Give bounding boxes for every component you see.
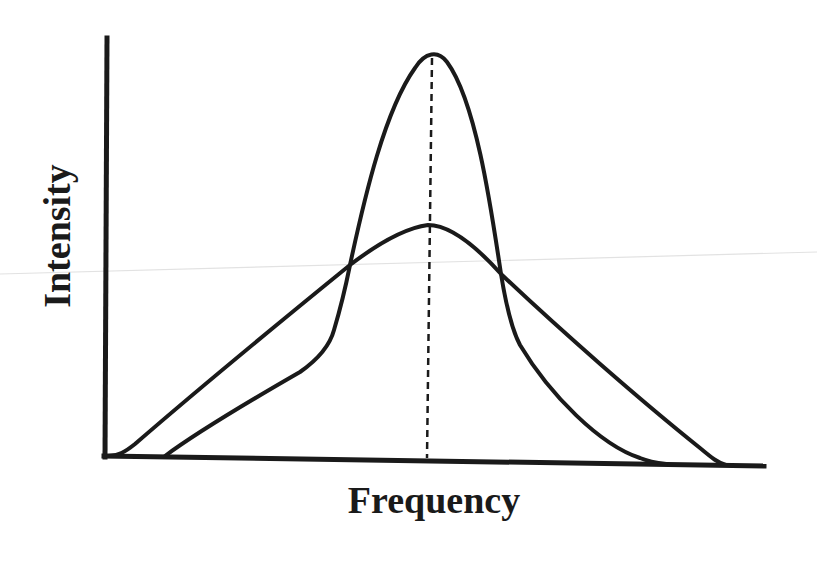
x-axis-label: Frequency bbox=[334, 478, 534, 522]
narrow-peak-curve bbox=[165, 54, 666, 464]
broad-peak-curve bbox=[108, 225, 726, 465]
scan-artifact-line bbox=[0, 252, 817, 274]
center-frequency-dashed-line bbox=[427, 58, 432, 458]
y-axis-label: Intensity bbox=[35, 146, 79, 326]
y-axis bbox=[105, 38, 107, 457]
